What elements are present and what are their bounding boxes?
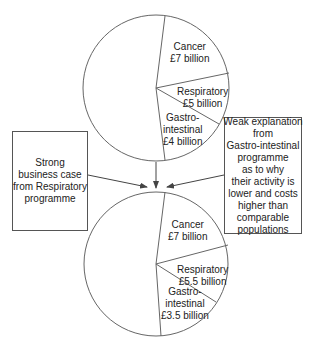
slice-name: Respiratory [177, 86, 228, 98]
box-text-line: from Respiratory [13, 181, 87, 193]
box-text-line: Gastro-intestinal [227, 140, 300, 152]
top-pie-respiratory-label: Respiratory £5 billion [177, 86, 228, 110]
box-text-line: business case [18, 169, 81, 181]
slice-name: Cancer [168, 219, 207, 231]
box-text-line: programme [24, 193, 75, 205]
box-text-line: comparable [237, 212, 289, 224]
slice-name-line: Gastro- [163, 112, 202, 124]
slice-value: £3.5 billion [161, 310, 209, 322]
right-annotation-box: Weak explanation from Gastro-intestinal … [224, 117, 302, 234]
slice-name: Cancer [170, 41, 209, 53]
slice-value: £4 billion [163, 136, 202, 148]
box-text-line: lower and costs [228, 188, 297, 200]
slice-value: £7 billion [168, 231, 207, 243]
top-pie-cancer-label: Cancer £7 billion [170, 41, 209, 65]
slice-name-line: intestinal [161, 298, 209, 310]
box-text-line: Weak explanation [223, 116, 302, 128]
slice-value: £7 billion [170, 53, 209, 65]
box-text-line: their activity is [232, 176, 295, 188]
arrow-left-box-to-bottom-pie [88, 175, 147, 187]
slice-value: £5 billion [177, 98, 228, 110]
box-text-line: as to why [242, 164, 284, 176]
slice-name: Respiratory [177, 264, 228, 276]
bottom-pie-cancer-label: Cancer £7 billion [168, 219, 207, 243]
slice-name-line: Gastro- [161, 286, 209, 298]
top-pie-gastro-intestinal-label: Gastro- intestinal £4 billion [163, 112, 202, 148]
left-annotation-box: Strong business case from Respiratory pr… [12, 131, 88, 231]
arrow-right-box-to-bottom-pie [167, 175, 224, 187]
box-text-line: from [253, 128, 273, 140]
bottom-pie-respiratory-label: Respiratory £5.5 billion [177, 264, 228, 288]
box-text-line: programme [237, 152, 288, 164]
slice-name-line: intestinal [163, 124, 202, 136]
box-text-line: higher than [238, 200, 288, 212]
box-text-line: populations [237, 224, 288, 236]
box-text-line: Strong [35, 157, 64, 169]
bottom-pie-gastro-intestinal-label: Gastro- intestinal £3.5 billion [161, 286, 209, 322]
